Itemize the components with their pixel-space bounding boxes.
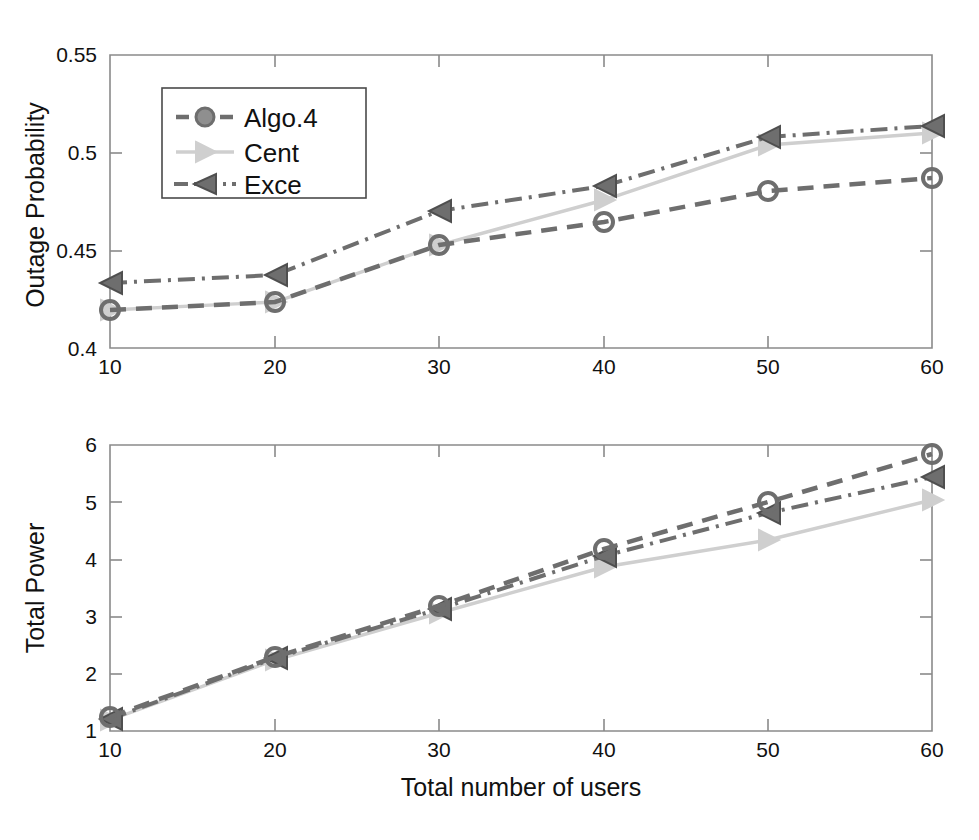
triangle-left-marker <box>922 466 944 488</box>
x-ticklabel: 50 <box>756 738 779 761</box>
x-ticklabel: 20 <box>263 355 286 378</box>
y-ticklabel: 0.5 <box>68 141 97 164</box>
triangle-left-marker <box>265 264 287 286</box>
x-ticklabel: 30 <box>427 355 450 378</box>
y-axis-title-top: Outage Probability <box>21 102 49 308</box>
y-ticklabel: 0.45 <box>56 239 97 262</box>
y-axis-ticklabels-bottom: 6 5 4 3 2 1 <box>85 433 97 742</box>
series-line-algo4 <box>110 454 932 717</box>
y-ticklabel: 2 <box>85 662 97 685</box>
x-ticklabel: 60 <box>920 738 943 761</box>
y-axis-title-bottom: Total Power <box>21 523 49 654</box>
series-line-exce <box>110 477 932 719</box>
y-ticklabel: 3 <box>85 605 97 628</box>
y-ticklabel: 4 <box>85 548 97 571</box>
triangle-left-marker <box>100 272 122 294</box>
x-ticklabel: 40 <box>592 738 615 761</box>
series-line-cent <box>110 500 932 720</box>
series-exce-bottom <box>100 466 944 730</box>
chart-total-power: 6 5 4 3 2 1 Total Power <box>0 400 979 840</box>
triangle-left-marker <box>429 200 451 222</box>
y-ticklabel: 0.55 <box>56 43 97 66</box>
y-axis-ticklabels-top: 0.55 0.5 0.45 0.4 <box>56 43 97 360</box>
x-ticklabel: 40 <box>592 355 615 378</box>
markers-cent-bottom <box>101 490 943 730</box>
figure-canvas: 0.55 0.5 0.45 0.4 Outage Probability <box>0 0 979 840</box>
series-group-bottom <box>100 445 944 730</box>
markers-exce-bottom <box>100 466 944 730</box>
chart-outage-probability: 0.55 0.5 0.45 0.4 Outage Probability <box>0 0 979 400</box>
total-power-svg: 6 5 4 3 2 1 Total Power <box>0 400 979 840</box>
legend-label-algo4: Algo.4 <box>244 103 318 133</box>
series-algo4-bottom <box>101 445 941 726</box>
legend-label-exce: Exce <box>244 170 302 200</box>
x-axis-ticklabels-top: 10 20 30 40 50 60 <box>98 355 943 378</box>
x-ticklabel: 60 <box>920 355 943 378</box>
triangle-right-marker <box>759 530 779 550</box>
triangle-right-marker <box>923 490 943 510</box>
y-ticklabel: 0.4 <box>68 337 98 360</box>
legend[interactable]: Algo.4 Cent Exce <box>162 88 366 200</box>
x-ticklabel: 50 <box>756 355 779 378</box>
y-ticklabel: 1 <box>85 719 97 742</box>
circle-icon <box>196 108 214 126</box>
x-ticklabel: 10 <box>98 738 121 761</box>
x-axis-ticklabels-bottom: 10 20 30 40 50 60 <box>98 738 943 761</box>
outage-probability-svg: 0.55 0.5 0.45 0.4 Outage Probability <box>0 0 979 400</box>
x-axis-title: Total number of users <box>401 773 641 801</box>
x-ticklabel: 30 <box>427 738 450 761</box>
x-ticklabel: 20 <box>263 738 286 761</box>
y-ticklabel: 5 <box>85 491 97 514</box>
y-ticklabel: 6 <box>85 433 97 456</box>
series-cent-bottom <box>101 490 943 730</box>
legend-label-cent: Cent <box>244 138 300 168</box>
x-ticklabel: 10 <box>98 355 121 378</box>
